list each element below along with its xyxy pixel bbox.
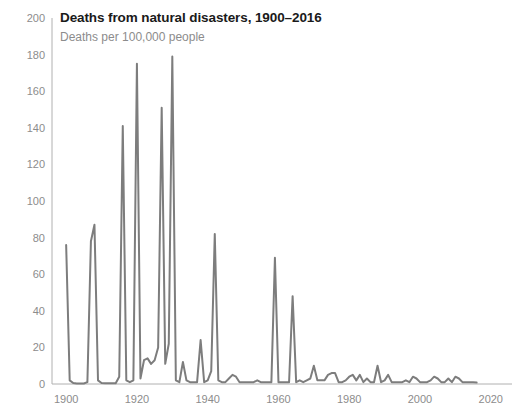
y-axis-tick-label: 80: [33, 232, 45, 244]
y-axis-ticks: 020406080100120140160180200: [27, 12, 45, 390]
y-axis-tick-label: 120: [27, 158, 45, 170]
y-axis-tick-label: 100: [27, 195, 45, 207]
y-axis-tick-label: 200: [27, 12, 45, 24]
x-axis-tick-label: 1940: [195, 393, 219, 405]
x-axis-tick-label: 1960: [266, 393, 290, 405]
x-axis-tick-label: 1920: [125, 393, 149, 405]
y-axis-tick-label: 60: [33, 268, 45, 280]
y-axis-tick-label: 20: [33, 341, 45, 353]
chart-svg: 020406080100120140160180200 190019201940…: [0, 0, 532, 420]
y-axis-tick-label: 180: [27, 49, 45, 61]
y-axis-tick-label: 160: [27, 85, 45, 97]
x-axis-ticks: 1900192019401960198020002020: [54, 393, 503, 405]
y-axis-tick-label: 140: [27, 122, 45, 134]
series-line-deaths: [66, 56, 476, 383]
x-axis-tick-label: 1980: [337, 393, 361, 405]
x-axis-tick-label: 2020: [479, 393, 503, 405]
x-axis-tick-label: 1900: [54, 393, 78, 405]
x-axis-tick-label: 2000: [408, 393, 432, 405]
y-axis-tick-label: 40: [33, 305, 45, 317]
chart-container: 020406080100120140160180200 190019201940…: [0, 0, 532, 420]
y-axis-tick-label: 0: [39, 378, 45, 390]
